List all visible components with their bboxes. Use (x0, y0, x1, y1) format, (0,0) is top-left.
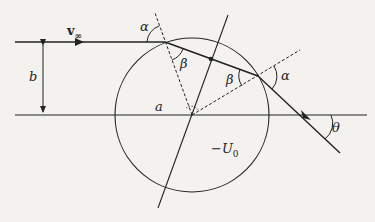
radius-label: a (155, 100, 163, 113)
diagram-canvas: v∞ b a −U0 α β β α θ (0, 0, 375, 222)
potential-label: −U0 (211, 142, 239, 159)
impact-parameter-label: b (29, 70, 37, 83)
alpha-in-label: α (140, 20, 149, 33)
beta-in-label: β (180, 57, 188, 70)
beta-out-arc (239, 69, 242, 86)
center-angle-arc (186, 106, 198, 110)
alpha-out-arc (272, 66, 277, 89)
alpha-out-label: α (281, 69, 290, 82)
velocity-label: v∞ (67, 24, 82, 41)
diagram-svg (0, 0, 375, 222)
beta-out-label: β (226, 73, 234, 86)
theta-label: θ (332, 121, 340, 134)
